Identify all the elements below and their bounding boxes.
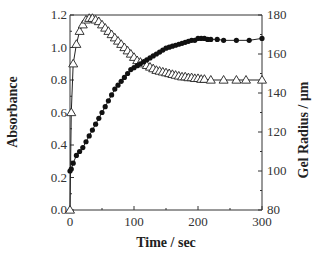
data-point-triangle: [242, 76, 251, 84]
data-point-circle: [83, 139, 88, 144]
x-axis-title: Time / sec: [136, 235, 196, 250]
x-tick-label: 100: [124, 214, 144, 229]
data-point-circle: [96, 116, 101, 121]
axes: [70, 15, 262, 210]
y-tick-label: 0.8: [51, 72, 67, 87]
data-point-circle: [215, 37, 220, 42]
series-line: [70, 38, 262, 171]
data-point-circle: [106, 98, 111, 103]
y-axis-title: Absorbance: [5, 76, 20, 148]
y-tick-label: 0.0: [51, 202, 67, 217]
y-tick-label: 1.0: [51, 40, 67, 55]
data-point-circle: [69, 166, 74, 171]
data-point-circle: [99, 110, 104, 115]
data-point-circle: [109, 92, 114, 97]
series-absorbance: [66, 14, 267, 213]
data-point-triangle: [232, 76, 241, 84]
y-tick-label: 1.2: [51, 7, 67, 22]
data-point-circle: [103, 104, 108, 109]
y-tick-label: 0.6: [51, 105, 68, 120]
y2-tick-label: 140: [267, 85, 287, 100]
y-tick-label: 0.2: [51, 170, 67, 185]
data-point-circle: [93, 122, 98, 127]
data-point-circle: [80, 145, 85, 150]
y2-tick-label: 160: [267, 46, 287, 61]
y-tick-label: 0.4: [51, 137, 68, 152]
x-tick-label: 200: [188, 214, 208, 229]
data-point-circle: [87, 133, 92, 138]
data-point-circle: [234, 38, 239, 43]
data-point-circle: [71, 161, 76, 166]
y2-tick-label: 100: [267, 163, 287, 178]
series-gel-radius: [67, 36, 264, 174]
series: [66, 14, 267, 213]
y2-tick-label: 80: [267, 202, 280, 217]
data-point-triangle: [258, 76, 267, 84]
data-point-circle: [208, 37, 213, 42]
data-point-triangle: [72, 40, 81, 48]
data-point-circle: [90, 127, 95, 132]
y2-tick-label: 180: [267, 7, 287, 22]
y2-tick-label: 120: [267, 124, 287, 139]
data-point-circle: [247, 38, 252, 43]
y2-axis-title: Gel Radius / μm: [296, 81, 311, 178]
data-point-circle: [259, 36, 264, 41]
data-point-circle: [221, 38, 226, 43]
data-point-triangle: [67, 108, 76, 116]
data-point-triangle: [219, 76, 228, 84]
chart: 01002003000.00.20.40.60.81.01.2801001201…: [0, 0, 324, 261]
x-tick-label: 0: [67, 214, 74, 229]
